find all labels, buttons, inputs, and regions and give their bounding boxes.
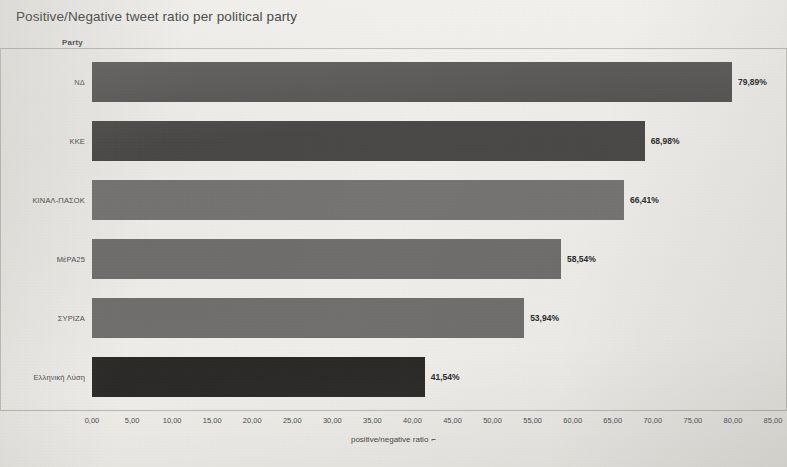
value-axis-title: positive/negative ratio⌐	[0, 435, 787, 444]
bar-category-label: ΚΙΝΑΛ-ΠΑΣΟΚ	[32, 195, 85, 204]
value-axis-tick-label: 55,00	[523, 416, 542, 425]
bar-category-label: ΜέΡΑ25	[57, 255, 85, 264]
value-axis-tick-label: 70,00	[643, 416, 662, 425]
value-axis-tick-label: 85,00	[764, 416, 783, 425]
bar-row: ΣΥΡΙΖΑ53,94%	[92, 298, 773, 338]
value-axis-tick-label: 30,00	[323, 416, 342, 425]
value-axis-tick-label: 45,00	[443, 416, 462, 425]
bar-row: ΚΙΝΑΛ-ΠΑΣΟΚ66,41%	[92, 180, 773, 220]
value-axis-ticks: 0,005,0010,0015,0020,0025,0030,0035,0040…	[92, 416, 773, 430]
bar-value-label: 66,41%	[630, 195, 659, 205]
axis-marker-icon: ⌐	[431, 435, 436, 444]
bar-category-label: ΚΚΕ	[70, 136, 85, 145]
bar-rect	[92, 121, 645, 161]
value-axis-tick-label: 60,00	[563, 416, 582, 425]
bar-rect	[92, 180, 624, 220]
value-axis-tick-label: 0,00	[85, 416, 100, 425]
value-axis-tick-label: 35,00	[363, 416, 382, 425]
value-axis-tick-label: 65,00	[603, 416, 622, 425]
bar-row: ΜέΡΑ2558,54%	[92, 239, 773, 279]
value-axis-tick-label: 15,00	[203, 416, 222, 425]
bar-rect	[92, 298, 524, 338]
bar-rect	[92, 239, 561, 279]
value-axis-tick-label: 75,00	[683, 416, 702, 425]
category-axis-title: Party	[62, 38, 83, 47]
bar-row: ΚΚΕ68,98%	[92, 121, 773, 161]
bar-value-label: 58,54%	[567, 254, 596, 264]
value-axis-tick-label: 20,00	[243, 416, 262, 425]
bar-value-label: 41,54%	[431, 372, 460, 382]
plot-left-border	[0, 48, 1, 411]
value-axis-tick-label: 50,00	[483, 416, 502, 425]
value-axis-tick-label: 25,00	[283, 416, 302, 425]
bar-category-label: ΝΔ	[74, 77, 85, 86]
bar-value-label: 79,89%	[738, 77, 767, 87]
bar-rect	[92, 357, 425, 397]
value-axis-tick-label: 5,00	[125, 416, 140, 425]
bar-value-label: 53,94%	[530, 313, 559, 323]
bar-row: Ελληνική Λύση41,54%	[92, 357, 773, 397]
bar-value-label: 68,98%	[651, 136, 680, 146]
bars-area: ΝΔ79,89%ΚΚΕ68,98%ΚΙΝΑΛ-ΠΑΣΟΚ66,41%ΜέΡΑ25…	[92, 52, 773, 407]
value-axis-title-text: positive/negative ratio	[351, 435, 428, 444]
bar-category-label: ΣΥΡΙΖΑ	[58, 314, 85, 323]
page-title: Positive/Negative tweet ratio per politi…	[16, 9, 297, 24]
bar-rect	[92, 62, 732, 102]
value-axis-tick-label: 10,00	[163, 416, 182, 425]
value-axis-tick-label: 80,00	[724, 416, 743, 425]
bar-category-label: Ελληνική Λύση	[33, 373, 85, 382]
value-axis-tick-label: 40,00	[403, 416, 422, 425]
bar-row: ΝΔ79,89%	[92, 62, 773, 102]
